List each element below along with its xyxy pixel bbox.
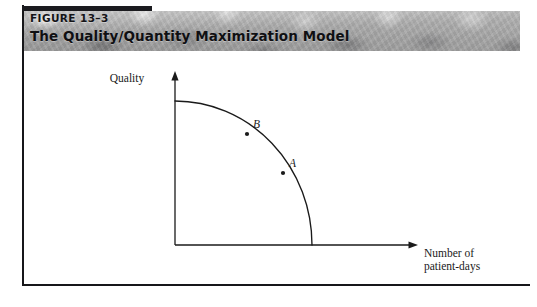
chart-svg: B A Quality Number of patient-days — [22, 52, 530, 284]
figure-title: The Quality/Quantity Maximization Model — [30, 27, 500, 46]
y-axis-arrowhead — [171, 71, 178, 81]
y-axis — [171, 71, 178, 245]
point-a-label: A — [288, 157, 297, 169]
point-b-marker — [245, 132, 249, 136]
x-axis-arrowhead — [409, 241, 419, 248]
point-b-label: B — [253, 118, 260, 130]
x-axis-label-line1: Number of — [424, 247, 474, 259]
x-axis — [175, 241, 418, 248]
point-a: A — [281, 157, 297, 175]
figure-root: FIGURE 13–3 The Quality/Quantity Maximiz… — [0, 0, 537, 307]
frontier-curve — [175, 101, 312, 245]
figure-border-bottom — [22, 284, 530, 286]
point-a-marker — [281, 171, 285, 175]
figure-number: FIGURE 13–3 — [30, 12, 500, 25]
figure-header-text: FIGURE 13–3 The Quality/Quantity Maximiz… — [30, 12, 500, 46]
y-axis-label: Quality — [110, 72, 145, 85]
point-b: B — [245, 118, 260, 136]
x-axis-label-line2: patient-days — [424, 260, 481, 273]
chart-plot-area: B A Quality Number of patient-days — [22, 52, 530, 284]
